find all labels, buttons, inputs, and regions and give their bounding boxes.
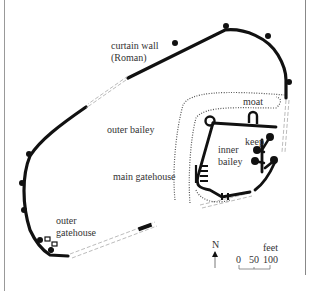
outer-wall-fragment <box>138 223 153 232</box>
label-inner-bailey: inner <box>218 144 239 155</box>
north-label: N <box>212 239 219 250</box>
wall-towers <box>19 23 292 243</box>
scale-tick-50: 50 <box>249 254 259 265</box>
scale-unit: feet <box>263 242 278 253</box>
label-curtain-wall-roman: (Roman) <box>111 52 147 63</box>
outer-gatehouse <box>45 237 57 253</box>
label-inner-bailey-2: bailey <box>218 156 242 167</box>
label-outer-bailey: outer bailey <box>107 124 154 135</box>
label-outer-gatehouse-2: gatehouse <box>56 227 96 238</box>
scale-bar <box>239 265 270 269</box>
label-keep: keep <box>245 136 264 147</box>
label-outer-gatehouse: outer <box>56 215 77 226</box>
scale-tick-0: 0 <box>236 254 241 265</box>
label-curtain-wall: curtain wall <box>111 40 158 51</box>
label-main-gatehouse: main gatehouse <box>113 171 175 182</box>
scale-tick-100: 100 <box>263 254 278 265</box>
label-moat: moat <box>243 96 263 107</box>
north-arrow-icon <box>212 251 218 268</box>
